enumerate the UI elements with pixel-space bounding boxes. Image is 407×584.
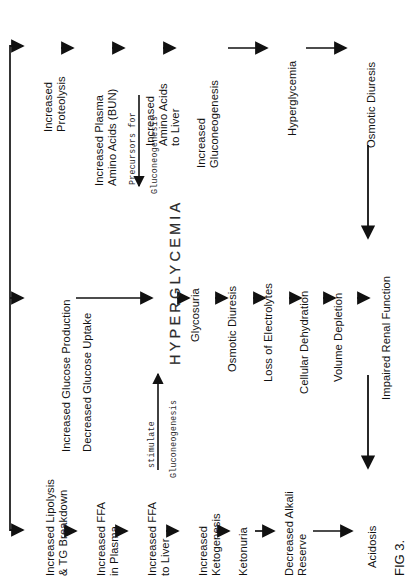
node-line: to Liver — [169, 83, 182, 146]
node-increased-plasma-amino-acids: Increased Plasma Amino Acids (BUN) — [93, 89, 118, 186]
node-line: Loss of Electrolytes — [262, 283, 275, 382]
node-line: Increased — [42, 76, 55, 132]
node-line: Gluconeogenesis — [208, 80, 221, 168]
node-decreased-glucose-uptake: Decreased Glucose Uptake — [81, 313, 94, 452]
node-increased-ketogenesis: Increased Ketogenesis — [197, 513, 222, 576]
node-line: Osmotic Diuresis — [365, 62, 378, 148]
node-line: Acidosis — [366, 526, 379, 568]
node-line: Increased — [197, 513, 210, 576]
node-increased-lipolysis-tg-breakdown: Increased Lipolysis & TG Breakdown — [44, 479, 69, 576]
node-glycosuria: Glycosuria — [189, 288, 202, 342]
node-volume-depletion: Volume Depletion — [332, 293, 345, 382]
node-line: Cellular Dehydration — [298, 291, 311, 394]
node-line: Increased — [195, 80, 208, 168]
edge-label-precursors-gluconeogenesis: Gluconeogenesis — [150, 116, 159, 194]
node-increased-ffa-to-liver: Increased FFA to Liver — [146, 502, 171, 576]
node-line: Ketogenesis — [210, 513, 223, 576]
node-impaired-renal-function: Impaired Renal Function — [380, 276, 393, 400]
edge-label-stimulate-gluconeogenesis: Gluconeogenesis — [169, 400, 178, 478]
node-line: & TG Breakdown — [57, 479, 70, 576]
node-line: Decreased Glucose Uptake — [81, 313, 94, 452]
node-increased-gluconeogenesis: Increased Gluconeogenesis — [195, 80, 220, 168]
node-line: Increased FFA — [146, 502, 159, 576]
edge-label-precursors: Precursors for — [128, 112, 137, 185]
node-line: Ketonuria — [237, 527, 250, 576]
node-cellular-dehydration: Cellular Dehydration — [298, 291, 311, 394]
node-decreased-alkali-reserve: Decreased Alkali Reserve — [283, 491, 308, 576]
edge-label-line: stimulate — [147, 421, 156, 468]
node-loss-of-electrolytes: Loss of Electrolytes — [262, 283, 275, 382]
node-line: Glycosuria — [189, 288, 202, 342]
node-increased-ffa-in-plasma: Increased FFA in Plasma — [95, 502, 120, 576]
node-line: Increased Lipolysis — [44, 479, 57, 576]
left-bracket — [10, 45, 23, 531]
node-line: to Liver — [159, 502, 172, 576]
figure-caption: FIG 3. — [392, 540, 407, 576]
node-line: Decreased Alkali — [283, 491, 296, 576]
node-line: Amino Acids (BUN) — [106, 89, 119, 186]
node-ketonuria: Ketonuria — [237, 527, 250, 576]
edge-label-line: Gluconeogenesis — [150, 116, 159, 194]
node-osmotic-diuresis-top: Osmotic Diuresis — [365, 62, 378, 148]
node-line: HYPERGLYCEMIA — [167, 200, 183, 365]
node-osmotic-diuresis-mid: Osmotic Diuresis — [226, 286, 239, 372]
edge-label-line: Gluconeogenesis — [169, 400, 178, 478]
node-increased-proteolysis: Increased Proteolysis — [42, 76, 67, 132]
node-hyperglycemia-top: Hyperglycemia — [286, 61, 299, 136]
edge-label-line: Precursors for — [128, 112, 137, 185]
node-acidosis: Acidosis — [366, 526, 379, 568]
node-hyperglycemia-central: HYPERGLYCEMIA — [167, 200, 183, 365]
node-increased-glucose-production: Increased Glucose Production — [60, 299, 73, 452]
node-line: Impaired Renal Function — [380, 276, 393, 400]
node-line: Increased Glucose Production — [60, 299, 73, 452]
node-line: Proteolysis — [55, 76, 68, 132]
edge-label-stimulate: stimulate — [147, 421, 156, 468]
node-line: in Plasma — [108, 502, 121, 576]
node-line: Hyperglycemia — [286, 61, 299, 136]
node-line: Osmotic Diuresis — [226, 286, 239, 372]
node-line: Increased Plasma — [93, 89, 106, 186]
node-line: Volume Depletion — [332, 293, 345, 382]
node-line: Increased FFA — [95, 502, 108, 576]
node-line: Reserve — [296, 491, 309, 576]
